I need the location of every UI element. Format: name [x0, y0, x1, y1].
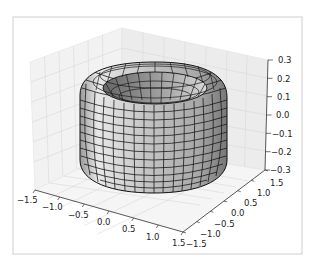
svg-text:−1.0: −1.0 — [42, 202, 63, 212]
svg-text:0.2: 0.2 — [277, 74, 291, 84]
svg-text:0.0: 0.0 — [276, 110, 290, 120]
svg-text:0.3: 0.3 — [278, 55, 292, 65]
svg-text:1.0: 1.0 — [257, 188, 271, 198]
torus-surface — [80, 62, 227, 193]
svg-text:−0.2: −0.2 — [271, 147, 292, 157]
svg-text:−0.3: −0.3 — [270, 165, 291, 175]
svg-text:1.0: 1.0 — [146, 232, 160, 242]
svg-text:−0.5: −0.5 — [68, 210, 89, 220]
svg-text:0.5: 0.5 — [122, 224, 136, 234]
svg-text:0.0: 0.0 — [231, 208, 245, 218]
svg-text:0.1: 0.1 — [277, 92, 291, 102]
svg-text:0.5: 0.5 — [244, 198, 258, 208]
svg-text:−0.5: −0.5 — [214, 219, 235, 229]
svg-text:−1.5: −1.5 — [186, 239, 207, 249]
torus-3d-plot: −1.5 −1.0 −0.5 0.0 0.5 1.0 1.5 −1.5 −1.0… — [0, 0, 315, 275]
svg-text:−1.5: −1.5 — [17, 195, 38, 205]
svg-text:1.5: 1.5 — [172, 238, 186, 248]
svg-text:1.5: 1.5 — [270, 178, 284, 188]
svg-text:−0.1: −0.1 — [272, 129, 293, 139]
svg-text:0.0: 0.0 — [97, 217, 111, 227]
svg-text:−1.0: −1.0 — [200, 229, 221, 239]
